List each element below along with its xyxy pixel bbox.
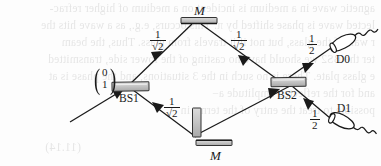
mirror-bottom[interactable] bbox=[196, 140, 232, 146]
detector-d0[interactable] bbox=[329, 29, 378, 53]
arrow-upper-in bbox=[151, 51, 163, 61]
amplitude-lower-in: 1 √2 bbox=[164, 96, 180, 119]
phase-plate-surface bbox=[193, 108, 202, 137]
phase-plate[interactable] bbox=[193, 108, 202, 137]
mirror-bottom-label: M bbox=[210, 149, 221, 162]
input-state-vector: ( 0 1 ) bbox=[92, 66, 118, 91]
amplitude-upper-in: 1 √2 bbox=[150, 29, 166, 52]
beam-splitter-1-label: BS1 bbox=[119, 93, 139, 105]
arrow-to-d0 bbox=[302, 63, 314, 73]
amplitude-to-d1-numerator: 1 bbox=[310, 108, 320, 119]
mirror-top-label: M bbox=[194, 4, 205, 17]
detector-d0-label: D0 bbox=[336, 54, 350, 66]
mirror-top[interactable] bbox=[181, 18, 217, 24]
amplitude-to-d0-denominator: 2 bbox=[307, 44, 317, 56]
amplitude-to-d1: 1 2 bbox=[310, 108, 320, 131]
bs2-highlight bbox=[273, 80, 304, 81]
detector-d1[interactable] bbox=[327, 113, 376, 134]
amplitude-upper-in-denominator: √2 bbox=[150, 40, 166, 52]
arrow-upper-out bbox=[238, 55, 250, 66]
detector-d1-label: D1 bbox=[337, 103, 351, 115]
amplitude-lower-in-denominator: √2 bbox=[164, 107, 180, 119]
beam-splitter-2[interactable] bbox=[271, 77, 306, 87]
optical-path-diagram bbox=[0, 0, 381, 166]
amplitude-to-d0-numerator: 1 bbox=[307, 33, 317, 44]
right-paren: ) bbox=[109, 67, 115, 90]
state-components: 0 1 bbox=[102, 66, 108, 91]
amplitude-upper-in-numerator: 1 bbox=[150, 29, 166, 40]
bs2-surface bbox=[271, 77, 306, 87]
state-top-component: 0 bbox=[102, 66, 108, 78]
amplitude-upper-out-denominator: √2 bbox=[231, 40, 247, 52]
amplitude-upper-out-numerator: 1 bbox=[231, 29, 247, 40]
amplitude-to-d0: 1 2 bbox=[307, 33, 317, 56]
amplitude-upper-out: 1 √2 bbox=[231, 29, 247, 52]
amplitude-to-d1-denominator: 2 bbox=[310, 119, 320, 131]
d1-signal-wave bbox=[354, 127, 377, 134]
beam-splitter-2-label: BS2 bbox=[277, 90, 297, 102]
bs1-highlight bbox=[114, 84, 147, 85]
mirror-top-surface bbox=[181, 18, 217, 24]
state-bottom-component: 1 bbox=[102, 78, 108, 90]
amplitude-lower-in-numerator: 1 bbox=[164, 96, 180, 107]
figure-canvas: agnetic wave in a medium is incident on … bbox=[0, 0, 381, 166]
left-paren: ( bbox=[94, 67, 100, 90]
d0-signal-wave bbox=[355, 29, 378, 35]
